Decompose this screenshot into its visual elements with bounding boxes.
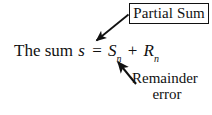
term-remainder-subscript: n [154, 53, 159, 64]
equation-equals-sign: = [90, 41, 104, 60]
term-remainder: Rn [144, 41, 159, 60]
remainder-label-line1: Remainder [132, 70, 210, 86]
equation-subject-variable: s [77, 41, 86, 60]
equation: The sum s = Sn + Rn [14, 42, 159, 62]
partial-sum-label: Partial Sum [133, 6, 205, 21]
remainder-label-line2: error [132, 86, 202, 102]
partial-sum-arrow [97, 15, 129, 41]
equation-lead-text: The sum [14, 41, 73, 60]
partial-sum-callout-box: Partial Sum [129, 3, 209, 24]
term-remainder-base: R [144, 41, 154, 60]
remainder-error-label: Remainder error [132, 70, 210, 102]
figure-canvas: Partial Sum The sum s = Sn + Rn Remainde… [0, 0, 212, 115]
equation-plus-sign: + [126, 41, 140, 60]
term-partial-sum: Sn [108, 41, 122, 60]
term-partial-sum-subscript: n [117, 53, 122, 64]
term-partial-sum-base: S [108, 41, 117, 60]
